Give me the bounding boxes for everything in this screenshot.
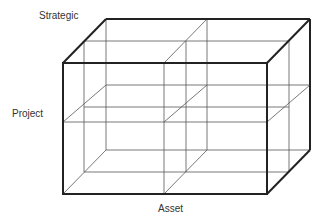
cube-inner-lines — [63, 19, 310, 194]
cube-outline — [63, 19, 310, 194]
cube-diagram — [0, 0, 326, 222]
